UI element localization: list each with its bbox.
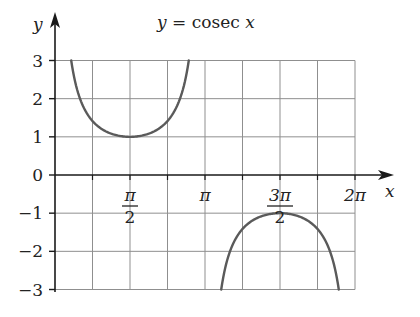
x-tick-label-numerator: 3π: [269, 185, 292, 205]
title-lhs: y: [156, 12, 167, 32]
title-eq: = cosec: [167, 12, 246, 32]
x-tick-label-denominator: 2: [275, 207, 286, 227]
y-tick-label: 2: [32, 89, 43, 109]
y-tick-label: −2: [18, 241, 43, 261]
y-tick-label: 1: [32, 127, 43, 147]
y-tick-label: −1: [18, 203, 43, 223]
y-tick-label: 3: [32, 51, 43, 71]
axes: [50, 12, 394, 292]
x-tick-label-numerator: π: [123, 185, 136, 205]
x-tick-label-denominator: 2: [125, 207, 136, 227]
y-tick-label: −3: [18, 280, 43, 300]
x-tick-labels: π2π3π22π: [93, 175, 367, 227]
x-tick-label: 2π: [343, 185, 367, 205]
chart-title: y = cosec x: [156, 12, 255, 32]
y-tick-labels: 3210−1−2−3: [18, 51, 55, 300]
x-axis-label: x: [385, 181, 395, 201]
y-tick-label: 0: [32, 165, 43, 185]
y-axis-label: y: [32, 14, 43, 34]
title-var: x: [245, 12, 255, 32]
x-tick-label: π: [198, 185, 211, 205]
cosec-graph: 3210−1−2−3 π2π3π22π y x y = cosec x: [0, 0, 420, 317]
